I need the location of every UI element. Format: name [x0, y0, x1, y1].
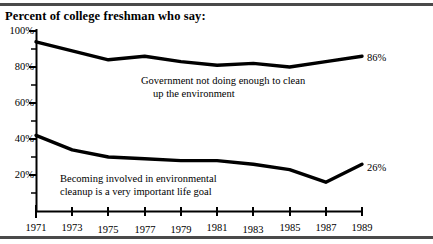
- y-axis-label-60: 60%: [0, 97, 34, 108]
- chart-plot-area: [0, 0, 433, 244]
- x-axis-label-1981: 1981: [197, 222, 237, 233]
- line-series-government: [36, 42, 362, 67]
- y-axis-label-40: 40%: [0, 133, 34, 144]
- y-axis-label-100: 100%: [0, 25, 34, 36]
- bottom-divider-rule: [0, 236, 433, 239]
- y-axis-label-20: 20%: [0, 169, 34, 180]
- x-axis-label-1989: 1989: [342, 222, 382, 233]
- annotation-government-line2: up the environment: [153, 87, 305, 100]
- x-axis-label-1979: 1979: [161, 224, 201, 235]
- end-value-label-involvement: 26%: [367, 162, 386, 173]
- series-annotation-involvement: Becoming involved in environmental clean…: [60, 172, 217, 198]
- x-axis-label-1973: 1973: [52, 222, 92, 233]
- annotation-involvement-line2: cleanup is a very important life goal: [60, 185, 217, 198]
- chart-container: Percent of college freshman who say:: [0, 0, 433, 244]
- x-axis-label-1977: 1977: [125, 224, 165, 235]
- x-axis-label-1975: 1975: [88, 224, 128, 235]
- x-axis-label-1987: 1987: [306, 222, 346, 233]
- annotation-involvement-line1: Becoming involved in environmental: [60, 173, 217, 184]
- series-annotation-government: Government not doing enough to clean up …: [141, 74, 305, 100]
- y-axis-label-80: 80%: [0, 61, 34, 72]
- annotation-government-line1: Government not doing enough to clean: [141, 75, 305, 86]
- x-axis-label-1985: 1985: [270, 222, 310, 233]
- x-axis-label-1971: 1971: [16, 222, 56, 233]
- end-value-label-government: 86%: [367, 52, 386, 63]
- x-axis-label-1983: 1983: [233, 224, 273, 235]
